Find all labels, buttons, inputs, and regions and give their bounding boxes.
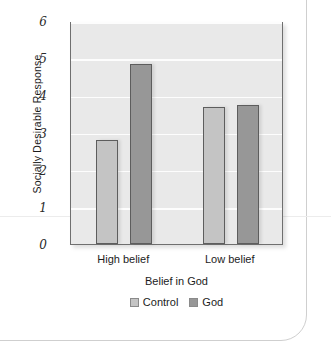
bar-god-high-belief [130,64,152,244]
y-tick-label-0: 0 [23,238,47,252]
plot-area [70,22,283,245]
x-axis-title: Belief in God [70,275,283,287]
legend-label: God [202,296,223,308]
y-tick-label-6: 6 [23,15,47,29]
legend-item-control[interactable]: Control [130,296,178,308]
legend-swatch-god [189,298,198,307]
gridline-4 [71,97,282,99]
legend-swatch-control [130,298,139,307]
gridline-6 [71,22,282,24]
bar-chart-figure: Socially Desirable Response 0123456 High… [0,0,331,349]
y-axis-title: Socially Desirable Response [31,19,43,229]
chart-legend: ControlGod [70,296,283,308]
y-tick-label-1: 1 [23,201,47,215]
x-tick-label-high-belief: High belief [68,253,178,265]
bar-control-high-belief [96,140,118,244]
y-tick-label-3: 3 [23,127,47,141]
bar-god-low-belief [237,105,259,244]
gridline-5 [71,59,282,61]
legend-label: Control [143,296,178,308]
bar-control-low-belief [203,107,225,244]
legend-item-god[interactable]: God [189,296,223,308]
y-tick-label-4: 4 [23,89,47,103]
y-tick-label-5: 5 [23,52,47,66]
x-tick-label-low-belief: Low belief [175,253,285,265]
y-tick-label-2: 2 [23,164,47,178]
